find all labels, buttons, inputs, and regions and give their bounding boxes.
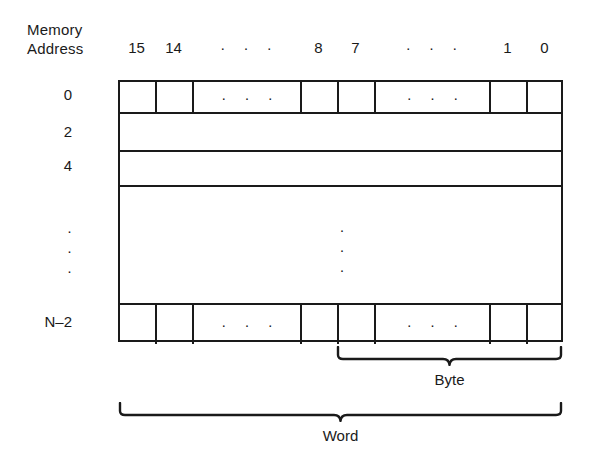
cell-bit-15 [120,305,157,344]
bit-header-label-8: 8 [300,38,337,58]
address-ellipsis-dot: · [0,261,72,281]
word-brace-label: Word [118,426,563,446]
cell-bit-8 [302,305,339,344]
cell-ellipsis: · · · [214,317,279,332]
cell-bit-1 [491,82,528,112]
row-address-n-minus-2: · · ·· · · [120,305,561,344]
byte-brace-label: Byte [336,370,563,390]
cell-bit-1 [491,305,528,344]
cell-bit-7 [339,305,376,344]
byte-brace: Byte [336,346,563,366]
cell-bit-0 [528,82,565,112]
bit-header-label-14: 14 [155,38,192,58]
bit-number-header: 1514· · ·87· · ·10 [118,38,563,60]
row-address-0: · · ·· · · [120,82,561,114]
memory-address-caption-line1: Memory [27,20,82,39]
address-label-2: 2 [0,122,72,142]
cell-bits-6-to-2-ellipsis: · · · [376,305,491,344]
address-label-0: 0 [0,85,72,105]
memory-body-ellipsis-dot: · [336,220,348,240]
cell-bits-13-to-9-ellipsis: · · · [194,82,302,112]
cell-bit-7 [339,82,376,112]
bit-header-ellipsis: · · · [374,38,489,58]
address-label-4: 4 [0,156,72,176]
address-ellipsis-dot: · [0,241,72,261]
cell-bits-13-to-9-ellipsis: · · · [194,305,302,344]
word-brace-glyph [118,402,563,422]
byte-brace-glyph [336,346,563,366]
row-address-4 [120,152,561,187]
bit-header-label-15: 15 [118,38,155,58]
memory-body-vertical-ellipsis: ··· [336,220,348,280]
cell-bit-14 [157,305,194,344]
cell-ellipsis: · · · [400,317,465,332]
cell-bit-15 [120,82,157,112]
memory-address-caption-line2: Address [27,39,83,58]
cell-ellipsis: · · · [214,90,279,105]
bit-header-ellipsis: · · · [192,38,300,58]
cell-ellipsis: · · · [400,90,465,105]
bit-header-label-1: 1 [489,38,526,58]
cell-bit-8 [302,82,339,112]
bit-header-label-0: 0 [526,38,563,58]
address-column-vertical-ellipsis: ··· [0,221,72,281]
cell-bits-6-to-2-ellipsis: · · · [376,82,491,112]
address-label-n-2: N–2 [0,312,72,332]
cell-bit-0 [528,305,565,344]
memory-body-ellipsis-dot: · [336,260,348,280]
cell-bit-14 [157,82,194,112]
word-brace: Word [118,402,563,422]
memory-table: · · ·· · ·· · ·· · ···· [118,80,563,342]
bit-header-label-7: 7 [337,38,374,58]
memory-organization-diagram: Memory Address 1514· · ·87· · ·10 024N–2… [0,0,593,463]
address-ellipsis-dot: · [0,221,72,241]
row-address-2 [120,114,561,152]
memory-body-ellipsis-dot: · [336,240,348,260]
